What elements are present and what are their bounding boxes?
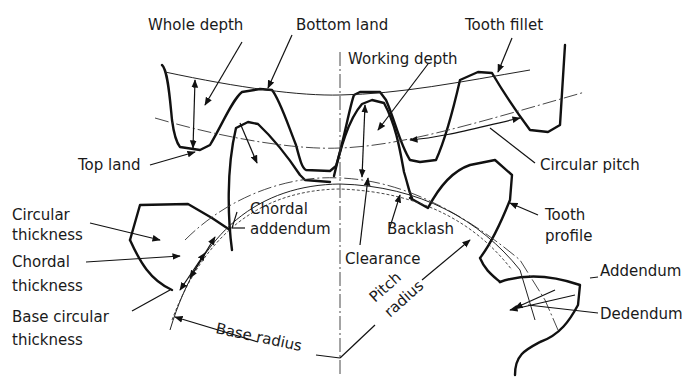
- dimension-arrows: [180, 80, 575, 310]
- label-addendum: Addendum: [600, 262, 681, 280]
- label-chordal-thickness-line2: thickness: [12, 277, 83, 295]
- label-tooth-fillet: Tooth fillet: [464, 16, 543, 34]
- label-working-depth: Working depth: [348, 50, 458, 68]
- label-whole-depth: Whole depth: [148, 16, 243, 34]
- label-circular-pitch: Circular pitch: [540, 156, 640, 174]
- label-tooth-profile-line2: profile: [545, 227, 592, 245]
- label-clearance: Clearance: [345, 250, 420, 268]
- label-chordal-addendum-line1: Chordal: [250, 200, 308, 218]
- label-base-circular-thickness-line2: thickness: [12, 331, 83, 349]
- label-dedendum: Dedendum: [600, 305, 683, 323]
- label-base-radius: Base radius: [214, 319, 304, 355]
- gear-nomenclature-diagram: Whole depth Bottom land Tooth fillet Wor…: [0, 0, 698, 377]
- label-backlash: Backlash: [387, 220, 454, 238]
- label-circular-thickness-line2: thickness: [12, 226, 83, 244]
- lower-gear: [130, 100, 580, 375]
- label-bottom-land: Bottom land: [296, 16, 388, 34]
- label-circular-thickness-line1: Circular: [12, 206, 71, 224]
- label-base-circular-thickness-line1: Base circular: [12, 308, 110, 326]
- labels: Whole depth Bottom land Tooth fillet Wor…: [12, 16, 683, 355]
- label-chordal-addendum-line2: addendum: [250, 220, 331, 238]
- leader-lines: [86, 35, 598, 358]
- label-top-land: Top land: [77, 156, 140, 174]
- label-tooth-profile-line1: Tooth: [544, 206, 585, 224]
- label-chordal-thickness-line1: Chordal: [12, 253, 70, 271]
